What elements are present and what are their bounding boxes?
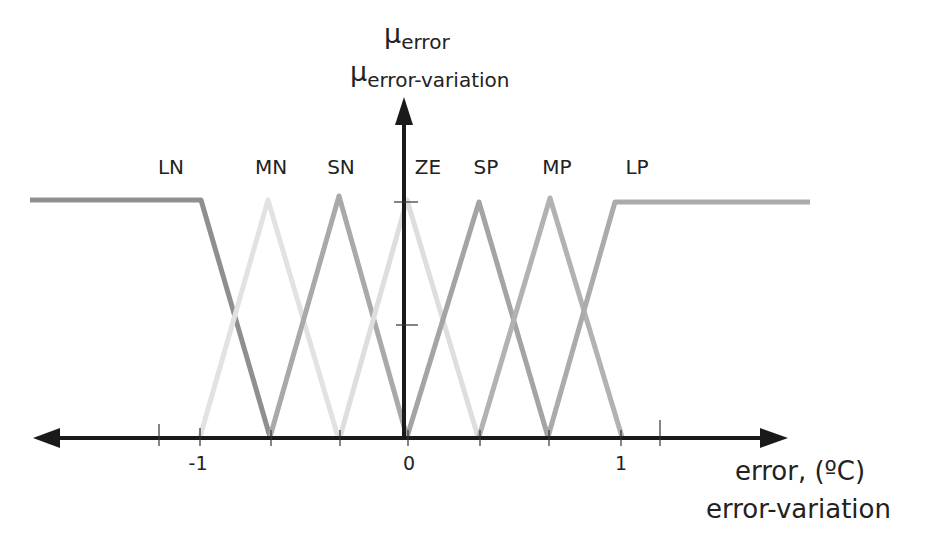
set-label-ZE: ZE <box>415 155 441 179</box>
x-axis-title-line2: error-variation <box>706 494 891 524</box>
x-tick-label-0: 0 <box>403 452 415 474</box>
y-axis-title-line2: μerror-variation <box>350 56 509 92</box>
x-axis-title-line1: error, (ºC) <box>735 456 865 486</box>
set-label-SP: SP <box>474 155 499 179</box>
set-SN-curve <box>270 196 407 437</box>
set-label-LN: LN <box>158 155 184 179</box>
set-SP-curve <box>407 202 548 437</box>
set-MP-curve <box>479 198 622 437</box>
x-axis-right-arrow-icon <box>760 428 788 448</box>
set-label-SN: SN <box>327 155 355 179</box>
set-label-MN: MN <box>255 155 287 179</box>
y-axis-arrow-icon <box>395 97 413 125</box>
set-MN-curve <box>200 200 338 437</box>
x-axis-left-arrow-icon <box>33 428 60 448</box>
x-tick-label-1: 1 <box>615 452 627 474</box>
x-tick-label-neg1: -1 <box>189 452 208 474</box>
set-ZE-curve <box>340 200 478 437</box>
y-axis-title-line1: μerror <box>384 18 450 54</box>
set-label-LP: LP <box>625 155 648 179</box>
set-label-MP: MP <box>542 155 571 179</box>
